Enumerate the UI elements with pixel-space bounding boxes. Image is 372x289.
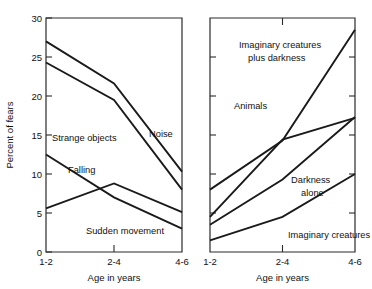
series-animals	[210, 118, 355, 217]
fears-by-age-figure: 0 5 10 15 20 25 30 1-2 2-4 4-6 Age in ye…	[0, 0, 372, 289]
label-darkness-alone-line1: Darkness	[291, 175, 331, 185]
left-ytick-5: 5	[37, 208, 42, 219]
right-xtick-4-6: 4-6	[348, 256, 362, 267]
left-ytick-15: 15	[31, 130, 42, 141]
left-ytick-10: 10	[31, 169, 42, 180]
right-chart-panel: 1-2 2-4 4-6 Age in years Imaginary creat…	[203, 18, 370, 283]
left-x-axis-title: Age in years	[88, 272, 141, 283]
left-xtick-4-6: 4-6	[175, 256, 189, 267]
label-noise: Noise	[149, 129, 173, 139]
right-x-axis-title: Age in years	[256, 272, 309, 283]
label-animals: Animals	[234, 101, 267, 111]
left-ytick-25: 25	[31, 52, 42, 63]
left-ytick-20: 20	[31, 91, 42, 102]
label-imaginary-plus-darkness-line1: Imaginary creatures	[239, 40, 322, 50]
left-chart-panel: 0 5 10 15 20 25 30 1-2 2-4 4-6 Age in ye…	[4, 13, 189, 284]
left-xtick-2-4: 2-4	[107, 256, 121, 267]
right-xtick-2-4: 2-4	[276, 256, 290, 267]
label-strange-objects: Strange objects	[52, 133, 117, 143]
label-falling: Falling	[68, 165, 95, 175]
right-xtick-1-2: 1-2	[203, 256, 217, 267]
label-imaginary-plus-darkness-line2: plus darkness	[248, 53, 306, 63]
series-noise	[46, 41, 182, 171]
left-y-axis-title: Percent of fears	[4, 101, 15, 168]
left-xtick-1-2: 1-2	[39, 256, 53, 267]
series-falling	[46, 155, 182, 229]
series-darkness-alone	[210, 117, 355, 225]
label-imaginary-creatures: Imaginary creatures	[288, 230, 371, 240]
label-darkness-alone-line2: alone	[301, 188, 324, 198]
label-sudden-movement: Sudden movement	[86, 226, 164, 236]
series-strange-objects	[46, 63, 182, 190]
left-ytick-30: 30	[31, 13, 42, 24]
